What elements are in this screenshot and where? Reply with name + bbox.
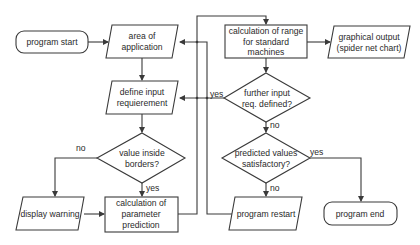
node-label: predicted values xyxy=(235,148,298,158)
node-label: value inside xyxy=(119,148,165,158)
node-display-warning: display warning xyxy=(16,197,84,230)
edge-label-predicted-no: no xyxy=(270,183,280,193)
node-graphical-output: graphical output (spider net chart) xyxy=(328,26,410,58)
node-program-start: program start xyxy=(16,31,88,53)
node-label: program start xyxy=(26,37,78,47)
node-label: calculation of range xyxy=(229,26,304,36)
node-predicted-values: predicted values satisfactory? xyxy=(222,133,310,183)
node-label: define input xyxy=(120,87,165,97)
node-label: calculation of xyxy=(116,198,167,208)
edge-label-further-yes: yes xyxy=(210,89,223,99)
edge-predicted-yes-to-end xyxy=(310,158,361,201)
edge-label-borders-no: no xyxy=(76,143,86,153)
node-area-of-application: area of application xyxy=(106,25,178,58)
node-program-end: program end xyxy=(324,202,397,225)
node-label: display warning xyxy=(20,209,79,219)
node-further-input: further input req. defined? xyxy=(224,73,310,122)
node-label: parameter xyxy=(121,209,160,219)
node-label: req. defined? xyxy=(242,99,292,109)
edge-restart-to-area xyxy=(180,42,232,214)
node-label: area of xyxy=(129,31,156,41)
node-label: for standard xyxy=(243,37,289,47)
node-label: program restart xyxy=(237,209,296,219)
junction-dot xyxy=(196,97,199,100)
node-define-input: define input requierement xyxy=(106,81,178,114)
junction-dot xyxy=(196,41,199,44)
node-label: satisfactory? xyxy=(242,159,290,169)
node-value-inside-borders: value inside borders? xyxy=(97,133,185,183)
node-program-restart: program restart xyxy=(229,197,302,230)
node-label: graphical output xyxy=(338,32,400,42)
flowchart-canvas: program start area of application define… xyxy=(0,0,420,245)
node-label: borders? xyxy=(125,159,159,169)
node-label: further input xyxy=(244,88,290,98)
node-calc-parameter-prediction: calculation of parameter prediction xyxy=(105,197,178,232)
node-calc-range: calculation of range for standard machin… xyxy=(225,25,307,58)
edges xyxy=(55,16,361,214)
edge-label-predicted-yes: yes xyxy=(310,147,323,157)
node-label: requierement xyxy=(117,98,168,108)
junction-dot xyxy=(206,97,209,100)
node-label: machines xyxy=(248,47,285,57)
node-label: prediction xyxy=(122,220,159,230)
edge-label-borders-yes: yes xyxy=(146,183,159,193)
node-label: program end xyxy=(336,209,385,219)
edge-borders-no-to-warning xyxy=(55,158,97,196)
node-label: application xyxy=(121,42,162,52)
node-label: (spider net chart) xyxy=(337,43,402,53)
edge-label-further-no: no xyxy=(270,120,280,130)
